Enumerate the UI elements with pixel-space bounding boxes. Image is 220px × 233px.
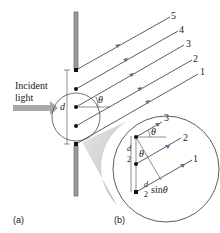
inset-angle-inner: θ bbox=[139, 149, 144, 159]
inset-angle-top: θ bbox=[151, 127, 156, 137]
path-diff-num: d bbox=[144, 181, 148, 189]
inset-ray-label-3: 3 bbox=[164, 113, 169, 123]
diffraction-grating-diagram bbox=[0, 0, 220, 233]
ray-label-3: 3 bbox=[186, 39, 191, 49]
path-diff-text: sinθ bbox=[151, 185, 168, 195]
inset-ray-label-1: 1 bbox=[193, 154, 198, 164]
path-diff-angle: θ bbox=[163, 184, 168, 195]
ray-label-2: 2 bbox=[193, 54, 198, 64]
incident-label-line2: light bbox=[15, 93, 33, 103]
barrier-top bbox=[74, 12, 78, 69]
angle-label: θ bbox=[98, 95, 103, 105]
incident-label-line1: Incident bbox=[15, 81, 48, 91]
ray-label-4: 4 bbox=[179, 25, 184, 35]
ray-label-1: 1 bbox=[200, 67, 205, 77]
path-diff-den: 2 bbox=[144, 191, 148, 199]
incident-light-arrow bbox=[13, 101, 58, 115]
inset-ray-label-2: 2 bbox=[183, 133, 188, 143]
ray-label-5: 5 bbox=[171, 11, 176, 21]
inset-circle bbox=[113, 116, 219, 222]
path-diff-suffix: sin bbox=[151, 184, 163, 195]
half-spacing-num: d bbox=[127, 145, 131, 153]
barrier-bottom bbox=[74, 146, 78, 196]
panel-a-label: (a) bbox=[13, 216, 24, 225]
slit-spacing-label: d bbox=[60, 102, 65, 112]
panel-b-label: (b) bbox=[114, 216, 125, 225]
half-spacing-den: 2 bbox=[127, 156, 131, 164]
